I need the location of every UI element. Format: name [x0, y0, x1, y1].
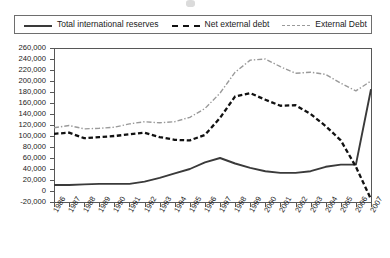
- y-tick-label: 40,000: [23, 165, 46, 173]
- y-tick-label: 20,000: [23, 176, 46, 184]
- series-line-total-international-reserves: [54, 89, 371, 185]
- x-axis: 1986198719881989199019911992199319941995…: [54, 203, 372, 258]
- y-tick-label: 240,000: [19, 55, 46, 63]
- legend-item-net-external-debt: Net external debt: [172, 16, 270, 33]
- y-tick-label: 60,000: [23, 154, 46, 162]
- series-line-external-debt: [54, 59, 371, 129]
- y-tick-label: 80,000: [23, 143, 46, 151]
- legend-label: External Debt: [315, 20, 367, 29]
- line-chart: Total international reserves Net externa…: [0, 0, 390, 258]
- y-tick-label: 200,000: [19, 77, 46, 85]
- y-tick-label: -20,000: [20, 198, 46, 206]
- scan-artifact: [186, 0, 195, 7]
- y-tick-label: 260,000: [19, 44, 46, 52]
- y-tick-label: 120,000: [19, 121, 46, 129]
- y-tick-label: 220,000: [19, 66, 46, 74]
- series-paths: [54, 59, 371, 199]
- y-tick-label: 180,000: [19, 88, 46, 96]
- dash-dot-line-swatch-icon: [282, 20, 310, 29]
- series-layer: [54, 48, 372, 203]
- y-tick-label: 100,000: [19, 132, 46, 140]
- legend-item-external-debt: External Debt: [282, 16, 367, 33]
- legend-label: Total international reserves: [57, 20, 159, 29]
- dashed-line-swatch-icon: [172, 20, 200, 29]
- chart-legend: Total international reserves Net externa…: [14, 15, 372, 34]
- y-axis: 260,000240,000220,000200,000180,000160,0…: [0, 42, 54, 210]
- y-tick-label: 140,000: [19, 110, 46, 118]
- y-tick-label: 160,000: [19, 99, 46, 107]
- legend-item-total-international-reserves: Total international reserves: [24, 16, 159, 33]
- y-tick-label: 0: [42, 187, 46, 195]
- legend-label: Net external debt: [205, 20, 270, 29]
- solid-line-swatch-icon: [24, 20, 52, 29]
